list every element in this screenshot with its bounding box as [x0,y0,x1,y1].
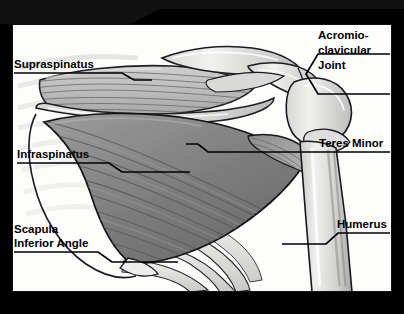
label-acj-line1: Acromio- [318,28,392,43]
label-supraspinatus: Supraspinatus [14,58,94,72]
label-scapula-line1: Scapula [14,223,134,237]
label-acj-line2: clavicular [318,43,392,58]
label-humerus: Humerus [337,218,387,232]
label-acromioclavicular-joint: Acromio- clavicular Joint [318,28,392,73]
label-infraspinatus: Infraspinatus [17,148,89,162]
leader-humerus [282,233,390,244]
label-scapula-inferior-angle: Scapula Inferior Angle [14,223,134,250]
anatomy-figure: POSTERIOR [0,0,404,314]
orientation-header-band [0,0,404,24]
leader-scapula-inferior-angle [14,252,178,262]
label-teres-minor: Teres Minor [319,137,383,151]
leader-supraspinatus [14,73,152,80]
illustration-panel: Supraspinatus Infraspinatus Scapula Infe… [12,24,392,292]
label-scapula-line2: Inferior Angle [14,237,134,251]
label-acj-line3: Joint [318,58,392,73]
leader-infraspinatus [17,163,190,172]
